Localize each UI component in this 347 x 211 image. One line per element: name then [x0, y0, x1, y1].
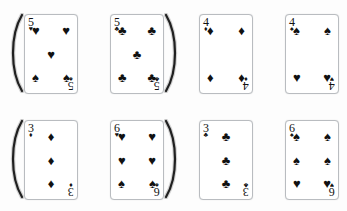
- page-curl-shadow-right: [164, 119, 180, 199]
- pip-field: ♣♣♣♣♣: [118, 24, 156, 84]
- heart-icon: ♥: [118, 154, 126, 167]
- pip-field: ♦♦♦: [32, 130, 70, 190]
- pip-row: ♦: [32, 154, 70, 167]
- spade-icon: ♠: [32, 71, 39, 84]
- spade-icon: ♠: [118, 177, 125, 190]
- pip-field: ♥♥♥♠♠: [32, 24, 70, 84]
- pip-row: ♣: [118, 48, 156, 61]
- heart-icon: ♥: [293, 71, 301, 84]
- pip-row: ♣♣: [118, 24, 156, 37]
- club-icon: ♣: [147, 24, 156, 37]
- diamond-icon: ♦: [207, 24, 214, 37]
- club-icon: ♣: [147, 71, 156, 84]
- heart-icon: ♥: [118, 130, 126, 143]
- playing-card[interactable]: 3♣3♣♣♣♣: [199, 120, 253, 200]
- diamond-icon: ♦: [207, 71, 214, 84]
- pip-field: ♥♥♥♥♠♠: [118, 130, 156, 190]
- club-icon: ♣: [118, 24, 127, 37]
- pip-row: ♥♥: [118, 130, 156, 143]
- pip-row: ♦: [32, 177, 70, 190]
- heart-icon: ♥: [47, 48, 55, 61]
- pip-field: ♦♦ ♦♦: [207, 24, 245, 84]
- playing-card[interactable]: 5♣5♣♣♣♣♣♣: [110, 14, 164, 94]
- pip-row: ♠♠: [118, 177, 156, 190]
- playing-card[interactable]: 3♦3♦♦♦♦: [24, 120, 78, 200]
- club-icon: ♣: [222, 130, 231, 143]
- club-icon: ♣: [133, 48, 142, 61]
- pip-row: ♥: [32, 48, 70, 61]
- playing-card[interactable]: 5♥5♠♥♥♥♠♠: [24, 14, 78, 94]
- heart-icon: ♥: [323, 177, 331, 190]
- diamond-icon: ♦: [48, 130, 55, 143]
- spade-icon: ♠: [324, 130, 331, 143]
- diamond-icon: ♦: [48, 154, 55, 167]
- playing-card[interactable]: 4♦4♦♦♦ ♦♦: [199, 14, 253, 94]
- heart-icon: ♥: [62, 24, 70, 37]
- spade-icon: ♠: [149, 177, 156, 190]
- pip-row: ♦♦: [207, 71, 245, 84]
- club-icon: ♣: [222, 154, 231, 167]
- page-curl-shadow-right: [164, 13, 180, 93]
- heart-icon: ♥: [32, 24, 40, 37]
- pip-row: ♥♥: [118, 154, 156, 167]
- spade-icon: ♠: [293, 130, 300, 143]
- spade-icon: ♠: [293, 24, 300, 37]
- spade-icon: ♠: [63, 71, 70, 84]
- page-curl-shadow-left: [8, 119, 24, 199]
- pip-row: ♠♠: [293, 154, 331, 167]
- diamond-icon: ♦: [238, 24, 245, 37]
- pip-row: ♠♠: [293, 24, 331, 37]
- heart-icon: ♥: [148, 130, 156, 143]
- card-scan-sheet: 5♥5♠♥♥♥♠♠5♣5♣♣♣♣♣♣4♦4♦♦♦ ♦♦4♠4♥♠♠ ♥♥3♦3♦…: [0, 0, 347, 211]
- playing-card[interactable]: 4♠4♥♠♠ ♥♥: [285, 14, 339, 94]
- playing-card[interactable]: 6♥6♠♥♥♥♥♠♠: [110, 120, 164, 200]
- pip-row: ♥♥: [32, 24, 70, 37]
- diamond-icon: ♦: [238, 71, 245, 84]
- heart-icon: ♥: [323, 71, 331, 84]
- pip-field: ♠♠ ♥♥: [293, 24, 331, 84]
- pip-field: ♠♠♠♠♥♥: [293, 130, 331, 190]
- pip-row: ♠♠: [32, 71, 70, 84]
- spade-icon: ♠: [324, 154, 331, 167]
- pip-row: ♥♥: [293, 71, 331, 84]
- heart-icon: ♥: [148, 154, 156, 167]
- playing-card[interactable]: 6♠6♥♠♠♠♠♥♥: [285, 120, 339, 200]
- pip-row: ♠♠: [293, 130, 331, 143]
- heart-icon: ♥: [293, 177, 301, 190]
- pip-row: ♦♦: [207, 24, 245, 37]
- page-curl-shadow-left: [8, 13, 24, 93]
- pip-row: ♣: [207, 130, 245, 143]
- club-icon: ♣: [118, 71, 127, 84]
- club-icon: ♣: [222, 177, 231, 190]
- spade-icon: ♠: [324, 24, 331, 37]
- pip-row: ♣: [207, 154, 245, 167]
- pip-row: ♣: [207, 177, 245, 190]
- diamond-icon: ♦: [48, 177, 55, 190]
- pip-row: ♥♥: [293, 177, 331, 190]
- pip-row: ♦: [32, 130, 70, 143]
- pip-row: ♣♣: [118, 71, 156, 84]
- spade-icon: ♠: [293, 154, 300, 167]
- pip-field: ♣♣♣: [207, 130, 245, 190]
